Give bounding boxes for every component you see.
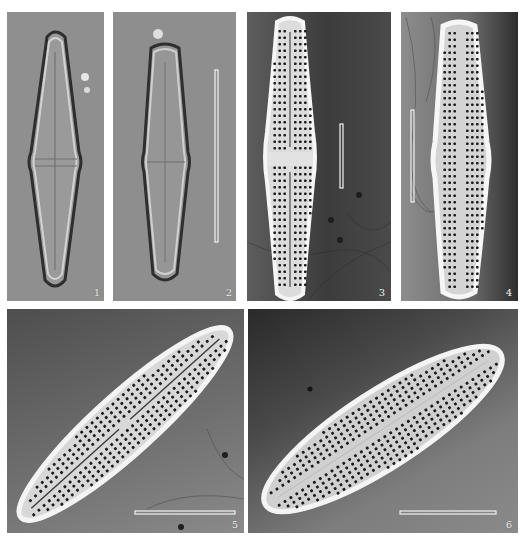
areola [453, 240, 456, 243]
areola [273, 121, 276, 124]
areola [299, 50, 302, 53]
areola [299, 102, 302, 105]
areola [278, 264, 281, 267]
areola [294, 173, 297, 176]
areola [466, 253, 469, 256]
areola [273, 219, 276, 222]
areola [453, 286, 456, 289]
areola [443, 84, 446, 87]
areola [294, 102, 297, 105]
areola [476, 130, 479, 133]
areola [453, 214, 456, 217]
areola [294, 134, 297, 137]
areola [283, 95, 286, 98]
areola [304, 115, 307, 118]
areola [476, 201, 479, 204]
areola [453, 266, 456, 269]
areola [309, 141, 312, 144]
areola [466, 188, 469, 191]
areola [476, 234, 479, 237]
areola [443, 195, 446, 198]
areola [299, 232, 302, 235]
areola [283, 30, 286, 33]
areola [448, 188, 451, 191]
areola [278, 69, 281, 72]
panel-1-lm-micrograph: 1 [7, 12, 104, 301]
areola [443, 97, 446, 100]
areola [471, 156, 474, 159]
areola [309, 167, 312, 170]
areola [471, 286, 474, 289]
diatom-valve-image [7, 309, 244, 533]
areola [448, 156, 451, 159]
areola [466, 273, 469, 276]
areola [309, 199, 312, 202]
areola [294, 89, 297, 92]
areola [453, 162, 456, 165]
areola [278, 50, 281, 53]
areola [471, 149, 474, 152]
areola [448, 227, 451, 230]
areola [273, 82, 276, 85]
areola [448, 253, 451, 256]
areola [471, 247, 474, 250]
areola [299, 89, 302, 92]
areola [476, 45, 479, 48]
areola [448, 104, 451, 107]
areola [443, 123, 446, 126]
areola [283, 167, 286, 170]
areola [304, 69, 307, 72]
areola [273, 225, 276, 228]
areola [278, 76, 281, 79]
areola [476, 104, 479, 107]
panel-label: 5 [232, 520, 238, 530]
areola [453, 208, 456, 211]
areola [448, 279, 451, 282]
areola [453, 175, 456, 178]
areola [453, 110, 456, 113]
areola [304, 232, 307, 235]
areola [304, 56, 307, 59]
areola [453, 221, 456, 224]
areola [299, 147, 302, 150]
panel-4-sem-micrograph: 4 [401, 12, 518, 301]
areola [304, 50, 307, 53]
areola [304, 63, 307, 66]
areola [481, 195, 484, 198]
areola [278, 232, 281, 235]
areola [278, 89, 281, 92]
areola [299, 212, 302, 215]
areola [476, 182, 479, 185]
areola [448, 58, 451, 61]
areola [273, 147, 276, 150]
areola [476, 266, 479, 269]
areola [283, 102, 286, 105]
areola [448, 91, 451, 94]
areola [294, 141, 297, 144]
areola [283, 212, 286, 215]
diatom-valve-image [248, 309, 518, 533]
areola [466, 91, 469, 94]
areola [481, 91, 484, 94]
areola [304, 95, 307, 98]
areola [466, 175, 469, 178]
areola [481, 97, 484, 100]
areola [471, 39, 474, 42]
areola [443, 156, 446, 159]
areola [273, 69, 276, 72]
diatom-valve-image [247, 12, 391, 301]
areola [476, 123, 479, 126]
areola [476, 214, 479, 217]
areola [273, 89, 276, 92]
areola [466, 110, 469, 113]
panel-label: 1 [94, 288, 100, 298]
areola [309, 186, 312, 189]
areola [283, 128, 286, 131]
areola [476, 97, 479, 100]
areola [481, 117, 484, 120]
areola [448, 32, 451, 35]
areola [278, 43, 281, 46]
areola [476, 149, 479, 152]
areola [309, 115, 312, 118]
areola [299, 271, 302, 274]
